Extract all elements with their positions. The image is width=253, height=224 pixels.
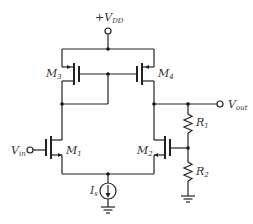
vdd-label: +VDD [95,11,124,25]
vout-label: Vout [228,98,248,112]
resistor-r2: R2 [181,146,209,202]
vout-terminal [217,101,223,107]
transistor-m3: M3 [45,63,79,104]
circuit-diagram: +VDD M3 M4 [0,0,253,224]
m2-label: M2 [136,144,153,158]
top-rail [62,47,154,67]
m1-label: M1 [65,144,82,158]
r2-label: R2 [195,165,209,179]
resistor-r1: R1 [184,104,209,148]
m4-label: M4 [157,67,174,81]
transistor-m1: Vin M1 [11,104,82,174]
m4-arrow-icon [145,65,149,69]
output-node: Vout [152,98,247,112]
ground-icon [181,196,195,202]
tail-current-source: Is [62,172,154,213]
resistor-zigzag-icon [184,162,192,181]
transistor-m4: M4 [137,63,174,123]
m3-arrow-icon [67,65,71,69]
vin-label: Vin [11,144,26,158]
r1-label: R1 [195,116,209,130]
m3-label: M3 [45,67,62,81]
mirror-gate-net [60,72,137,106]
resistor-zigzag-icon [184,114,192,133]
current-arrow-icon [106,193,111,198]
vdd-terminal-circle [105,28,111,34]
m2-arrow-icon [154,153,158,157]
vdd-terminal: +VDD [95,11,124,49]
ground-icon [101,207,115,213]
transistor-m2: M2 [136,123,188,174]
vin-terminal [27,147,33,153]
is-label: Is [89,184,98,198]
